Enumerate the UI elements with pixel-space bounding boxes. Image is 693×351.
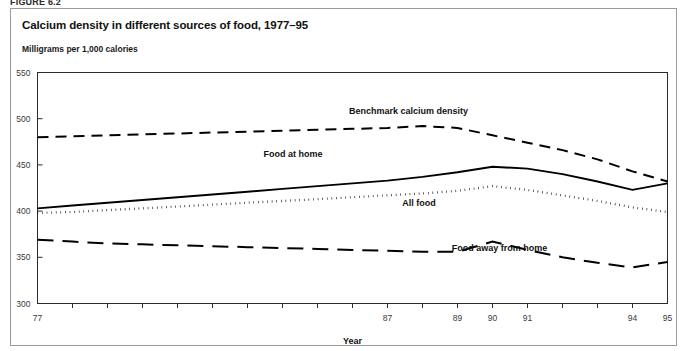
x-axis-title: Year — [343, 336, 363, 346]
x-axis-tick-labels: 77878990919495 — [33, 313, 673, 323]
series-label-all-food: All food — [402, 198, 436, 208]
x-axis-tick-label: 89 — [453, 313, 463, 323]
x-axis-tick-label: 90 — [488, 313, 498, 323]
y-axis-tick-label: 400 — [16, 206, 30, 216]
x-axis-tick-label: 77 — [33, 313, 43, 323]
series-line-food-away-from-home — [38, 240, 668, 268]
series-line-all-food — [38, 186, 668, 213]
x-axis-tick-label: 94 — [628, 313, 638, 323]
series-label-benchmark-calcium-density: Benchmark calcium density — [349, 106, 468, 116]
y-axis-tick-marks — [38, 119, 43, 258]
data-series-group — [38, 126, 668, 267]
series-line-food-at-home — [38, 167, 668, 209]
y-axis-tick-label: 300 — [16, 299, 30, 309]
y-axis-tick-label: 350 — [16, 252, 30, 262]
series-label-food-away-from-home: Food away from home — [452, 243, 548, 253]
y-axis-tick-label: 500 — [16, 114, 30, 124]
x-axis-tick-label: 91 — [523, 313, 533, 323]
y-axis-tick-label: 450 — [16, 160, 30, 170]
y-axis-tick-labels: 300350400450500550 — [16, 68, 30, 309]
series-line-benchmark-calcium-density — [38, 126, 668, 181]
x-axis-tick-label: 87 — [383, 313, 393, 323]
line-chart-plot: 300350400450500550 77878990919495 Benchm… — [0, 0, 693, 351]
y-axis-tick-label: 550 — [16, 68, 30, 78]
x-axis-tick-marks — [73, 304, 633, 309]
figure-root: FIGURE 6.2 Calcium density in different … — [0, 0, 693, 351]
x-axis-tick-label: 95 — [663, 313, 673, 323]
series-label-food-at-home: Food at home — [264, 149, 323, 159]
